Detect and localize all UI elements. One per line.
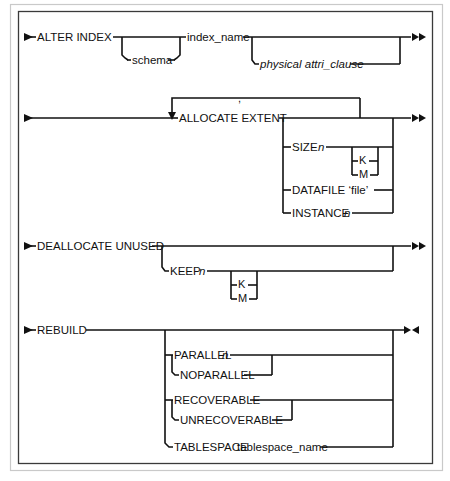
end-double-arrow-icon-a [412, 33, 419, 41]
syntax-diagram-container: ALTER INDEX schema index_name physical a… [0, 0, 450, 481]
unit-m-size: M [359, 168, 368, 180]
line-deallocate-unused: DEALLOCATE UNUSED KEEP n K M [24, 240, 426, 305]
deallocate-end-arrow-icon-b [419, 242, 426, 250]
placeholder-keep-n: n [199, 265, 205, 277]
line-rebuild: REBUILD PARALLEL n NOPARALLEL RECOVERABL… [24, 324, 419, 453]
line-alter-index: ALTER INDEX schema index_name physical a… [24, 31, 426, 70]
keyword-noparallel: NOPARALLEL [180, 369, 255, 381]
deallocate-end-arrow-icon-a [412, 242, 419, 250]
placeholder-parallel-n: n [222, 349, 228, 361]
placeholder-index-name: index_name [187, 31, 250, 43]
keyword-datafile: DATAFILE ‘file’ [292, 184, 368, 196]
keyword-keep: KEEP [170, 265, 201, 277]
keyword-unrecoverable: UNRECOVERABLE [180, 414, 283, 426]
keyword-deallocate-unused: DEALLOCATE UNUSED [37, 240, 164, 252]
rail-physattr-branch-in [252, 37, 259, 64]
rebuild-end-arrow-icon [404, 326, 411, 334]
line-allocate-extent: , ALLOCATE EXTENT SIZE n K [24, 92, 426, 219]
placeholder-instance-n: n [344, 207, 350, 219]
unit-k-keep: K [238, 278, 246, 290]
railroad-diagram: ALTER INDEX schema index_name physical a… [0, 0, 450, 481]
keyword-schema: schema [132, 54, 173, 66]
placeholder-physical-attri-clause: physical attri_clause [259, 58, 364, 70]
placeholder-tablespace-name: tablespace_name [237, 441, 328, 453]
unit-k-size: K [359, 154, 367, 166]
keyword-allocate-extent: ALLOCATE EXTENT [179, 112, 287, 124]
rail-rebuild-option-spine [165, 330, 173, 447]
rail-schema-branch-in [122, 37, 128, 60]
keyword-instance: INSTANCE [292, 207, 350, 219]
comma-loop-down-arrow-icon [168, 112, 176, 120]
rail-schema-branch-out [174, 37, 180, 60]
unit-m-keep: M [238, 292, 247, 304]
separator-comma: , [238, 92, 241, 104]
rebuild-terminator-icon [412, 326, 419, 334]
allocate-end-arrow-icon-b [419, 114, 426, 122]
keyword-size: SIZE [292, 141, 318, 153]
keyword-recoverable: RECOVERABLE [174, 394, 261, 406]
placeholder-size-n: n [318, 141, 324, 153]
allocate-end-arrow-icon-a [412, 114, 419, 122]
keyword-rebuild: REBUILD [37, 324, 87, 336]
keyword-alter-index: ALTER INDEX [37, 31, 112, 43]
end-double-arrow-icon-b [419, 33, 426, 41]
